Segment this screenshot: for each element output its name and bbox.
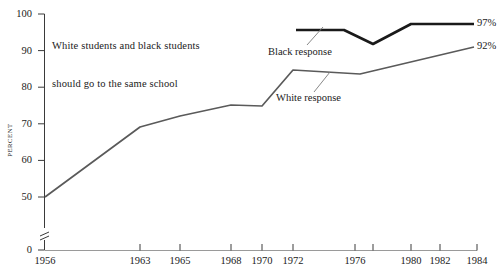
- end-value-black-response: 97%: [477, 17, 496, 30]
- xtick-label-1956: 1956: [26, 255, 64, 268]
- xtick-label-1972: 1972: [274, 255, 312, 268]
- chart-title: White students and black students should…: [52, 14, 200, 116]
- xtick-label-1982: 1982: [421, 255, 459, 268]
- leader-line-white-response: [314, 72, 330, 92]
- xtick-label-1965: 1965: [161, 255, 199, 268]
- chart-figure: White students and black students should…: [0, 0, 503, 278]
- ytick-label-70: 70: [6, 118, 32, 131]
- ytick-label-60: 60: [6, 154, 32, 167]
- axis-break-icon: [40, 232, 49, 236]
- axis-break-icon-2: [40, 236, 49, 240]
- ytick-label-90: 90: [6, 45, 32, 58]
- chart-title-line-1: White students and black students: [52, 40, 200, 53]
- annotation-white-response: White response: [276, 92, 341, 105]
- end-value-white-response: 92%: [477, 40, 496, 53]
- xtick-label-1976: 1976: [336, 255, 374, 268]
- ytick-label-80: 80: [6, 81, 32, 94]
- chart-title-line-2: should go to the same school: [52, 78, 200, 91]
- ytick-label-50: 50: [6, 191, 32, 204]
- annotation-black-response: Black response: [268, 46, 332, 59]
- xtick-label-1984: 1984: [458, 255, 496, 268]
- xtick-label-1963: 1963: [121, 255, 159, 268]
- ytick-label-100: 100: [6, 8, 32, 21]
